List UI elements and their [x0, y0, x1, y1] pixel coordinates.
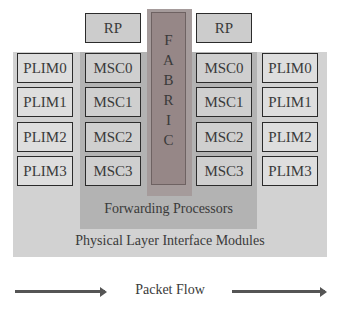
plim-box-left: PLIM0: [17, 53, 73, 83]
plim-box-left: PLIM3: [17, 156, 73, 186]
msc-box-right: MSC1: [196, 87, 252, 117]
fabric-label: F A B R I C: [151, 30, 186, 150]
packet-flow-arrow-left-icon: [15, 290, 105, 293]
plim-box-left: PLIM2: [17, 122, 73, 152]
fabric-letter: F: [164, 30, 172, 50]
packet-flow-arrow-right-icon: [232, 290, 325, 293]
msc-box-right: MSC3: [196, 156, 252, 186]
plim-box-right: PLIM3: [262, 156, 318, 186]
fabric-letter: A: [163, 50, 174, 70]
plim-box-left: PLIM1: [17, 87, 73, 117]
fabric-letter: I: [166, 110, 171, 130]
msc-box-right: MSC0: [196, 53, 252, 83]
msc-box-left: MSC2: [85, 122, 141, 152]
plim-box-right: PLIM0: [262, 53, 318, 83]
msc-box-left: MSC0: [85, 53, 141, 83]
msc-box-left: MSC1: [85, 87, 141, 117]
route-processor-right: RP: [196, 13, 252, 43]
fabric-letter: C: [163, 130, 173, 150]
route-processor-left: RP: [85, 13, 141, 43]
plim-box-right: PLIM2: [262, 122, 318, 152]
packet-flow-label: Packet Flow: [110, 282, 230, 298]
plim-region-label: Physical Layer Interface Modules: [13, 233, 327, 249]
plim-box-right: PLIM1: [262, 87, 318, 117]
fabric-letter: R: [163, 90, 173, 110]
msc-box-right: MSC2: [196, 122, 252, 152]
forwarding-processors-label: Forwarding Processors: [80, 201, 257, 217]
msc-box-left: MSC3: [85, 156, 141, 186]
fabric-letter: B: [163, 70, 173, 90]
